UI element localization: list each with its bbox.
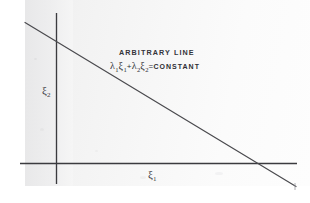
arbitrary-line-caption: ARBITRARY LINE [119,49,195,56]
constant-word: CONSTANT [154,63,200,70]
horizontal-axis-label: ξ1 [148,169,156,183]
vertical-axis-subscript: 2 [47,91,51,99]
vertical-axis-label: ξ2 [42,85,50,99]
line-equation: λ1ξ1+λ2ξ2=CONSTANT [110,61,200,74]
figure-canvas: ARBITRARY LINE λ1ξ1+λ2ξ2=CONSTANT ξ2 ξ1 [0,0,310,203]
horizontal-axis-subscript: 1 [153,175,157,183]
